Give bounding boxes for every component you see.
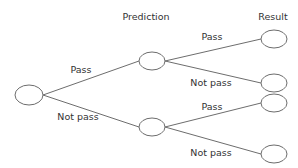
edge-predpass-pass	[165, 39, 261, 61]
edge-label-prednotpass-notpass: Not pass	[190, 147, 231, 158]
node-prediction-notpass	[139, 118, 165, 136]
edge-label-root-notpass: Not pass	[57, 111, 98, 122]
header-prediction: Prediction	[122, 11, 169, 22]
edge-label-root-pass: Pass	[70, 64, 91, 75]
decision-tree-diagram: Prediction Result Pass Not pass Pass Not…	[0, 0, 298, 168]
edge-label-prednotpass-pass: Pass	[201, 101, 222, 112]
node-prediction-pass	[139, 52, 165, 70]
node-root	[15, 85, 43, 105]
node-result-4	[261, 145, 287, 163]
header-result: Result	[258, 11, 288, 22]
edge-label-predpass-pass: Pass	[201, 31, 222, 42]
node-result-3	[261, 94, 287, 112]
node-result-2	[261, 74, 287, 92]
node-result-1	[261, 30, 287, 48]
edge-label-predpass-notpass: Not pass	[190, 77, 231, 88]
